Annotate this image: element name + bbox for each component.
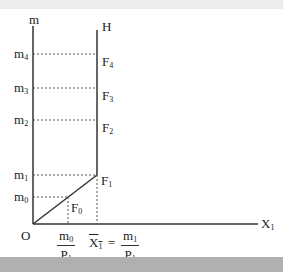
m4-label: m4 [14,47,28,62]
f0-label: F0 [71,201,82,216]
h-label: H [102,20,111,33]
origin-label: O [21,229,30,242]
equals-sign: = [108,236,115,249]
diagonal-line [33,175,97,224]
y-axis-label: m [29,13,39,26]
f4-label: F4 [102,55,113,70]
x-tick-x1-bar: X1 [89,236,102,251]
diagram-canvas [0,0,283,272]
f3-label: F3 [102,89,113,104]
x-axis-label: X1 [261,217,274,232]
bottom-band [0,257,283,272]
m1-label: m1 [14,168,28,183]
m3-label: m3 [14,81,28,96]
f1-label: F1 [101,174,112,189]
f2-label: F2 [102,121,113,136]
m2-label: m2 [14,113,28,128]
m0-label: m0 [14,190,28,205]
